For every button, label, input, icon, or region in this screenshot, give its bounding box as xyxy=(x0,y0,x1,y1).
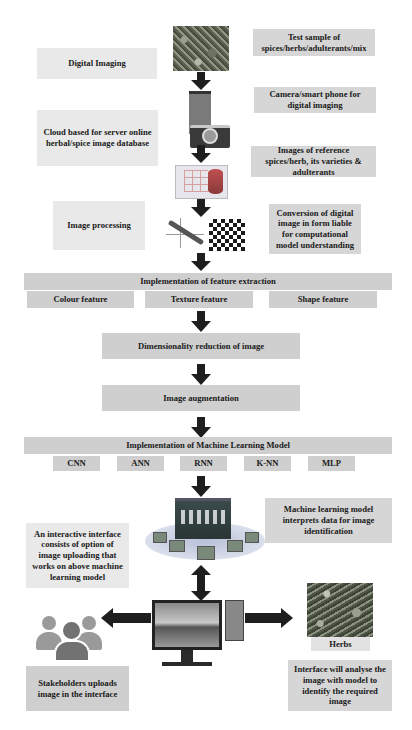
reference-images-box: Images of reference spices/herb, its var… xyxy=(251,146,376,177)
interface-analyse-box: Interface will analyse the image with mo… xyxy=(288,660,392,711)
bidirectional-arrow-icon xyxy=(191,565,211,601)
kiosk-base xyxy=(162,662,212,666)
test-sample-box: Test sample of spices/herbs/adulterants/… xyxy=(253,29,375,56)
arrow-down-icon xyxy=(191,72,211,90)
tower-icon xyxy=(225,600,244,641)
ml-interprets-box: Machine learning model interprets data f… xyxy=(265,498,392,543)
arrow-left-icon xyxy=(101,608,151,628)
model-knn: K-NN xyxy=(244,456,291,471)
arrow-right-icon xyxy=(245,608,293,628)
image-augmentation-box: Image augmentation xyxy=(102,385,300,411)
arrow-down-icon xyxy=(191,476,211,498)
feature-extraction-header: Implementation of feature extraction xyxy=(24,273,392,290)
checkerboard-icon xyxy=(209,219,245,251)
herb-sample-photo xyxy=(173,26,229,71)
database-icon xyxy=(175,165,228,199)
dimensionality-reduction-box: Dimensionality reduction of image xyxy=(102,333,300,359)
camera-box: Camera/smart phone for digital imaging xyxy=(254,87,376,113)
feature-shape: Shape feature xyxy=(269,291,377,308)
model-mlp: MLP xyxy=(308,456,355,471)
arrow-down-icon xyxy=(191,364,211,386)
model-cnn: CNN xyxy=(53,456,100,471)
model-ann: ANN xyxy=(117,456,164,471)
cloud-database-box: Cloud based for server online herbal/spi… xyxy=(37,110,158,166)
image-processing-box: Image processing xyxy=(53,201,145,250)
people-icon xyxy=(36,614,104,658)
arrow-down-icon xyxy=(191,199,211,217)
arrow-down-icon xyxy=(191,417,211,439)
herbs-label-box: Herbs xyxy=(311,637,370,651)
arrow-down-icon xyxy=(191,311,211,333)
conversion-box: Conversion of digital image in form liab… xyxy=(269,204,361,254)
feature-texture: Texture feature xyxy=(145,291,253,308)
herb-photo xyxy=(307,583,373,637)
ml-model-header: Implementation of Machine Learning Model xyxy=(24,437,392,454)
arrow-down-icon xyxy=(191,253,211,271)
arrow-down-icon xyxy=(191,145,211,163)
digital-imaging-box: Digital Imaging xyxy=(37,48,157,79)
graph-icon xyxy=(164,218,206,252)
monitor-kiosk-icon xyxy=(152,600,222,650)
model-rnn: RNN xyxy=(180,456,227,471)
server-network-icon xyxy=(145,498,265,566)
stakeholders-box: Stakeholders uploads image in the interf… xyxy=(26,666,129,711)
feature-colour: Colour feature xyxy=(27,291,134,308)
interactive-interface-box: An interactive interface consists of opt… xyxy=(26,523,129,588)
